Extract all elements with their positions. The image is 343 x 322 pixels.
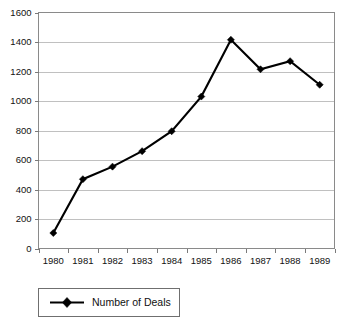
y-axis-tick-label: 1600	[10, 7, 31, 18]
x-axis-tick-label: 1986	[220, 255, 241, 266]
y-axis-tick-label: 400	[16, 184, 32, 195]
x-axis-tick-label: 1984	[161, 255, 182, 266]
line-chart: 02004006008001000120014001600 1980198119…	[0, 0, 343, 322]
chart-container: 02004006008001000120014001600 1980198119…	[0, 0, 343, 322]
y-axis-tick-label: 1000	[10, 95, 31, 106]
y-axis-tick-label: 0	[26, 243, 31, 254]
y-axis-tick-label: 600	[16, 154, 32, 165]
x-axis-tick-label: 1980	[43, 255, 64, 266]
x-axis-tick-label: 1987	[250, 255, 271, 266]
y-axis-tick-label: 1400	[10, 36, 31, 47]
x-axis-tick-label: 1981	[72, 255, 93, 266]
x-axis-tick-label: 1983	[132, 255, 153, 266]
chart-background	[0, 0, 343, 322]
y-axis-tick-label: 800	[16, 125, 32, 136]
x-axis-tick-label: 1988	[280, 255, 301, 266]
y-axis-tick-label: 200	[16, 213, 32, 224]
chart-legend: Number of Deals	[39, 289, 180, 317]
x-axis-tick-label: 1989	[309, 255, 330, 266]
legend-entry-label: Number of Deals	[92, 296, 171, 308]
x-axis-tick-label: 1985	[191, 255, 212, 266]
y-axis-tick-label: 1200	[10, 66, 31, 77]
x-axis-tick-label: 1982	[102, 255, 123, 266]
